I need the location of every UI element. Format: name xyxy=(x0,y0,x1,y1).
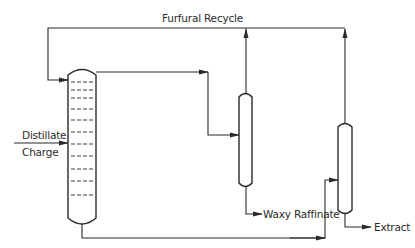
recycle-label: Furfural Recycle xyxy=(162,12,243,24)
raffinate-stream-down xyxy=(208,72,239,135)
waxy-raffinate-outlet xyxy=(246,187,262,214)
process-flow-diagram xyxy=(0,0,415,248)
extract-recovery-column xyxy=(338,124,352,214)
tower-trays xyxy=(71,82,93,195)
waxy-raffinate-label: Waxy Raffinate xyxy=(263,208,340,220)
extraction-tower xyxy=(68,70,96,225)
feed-label-line2: Charge xyxy=(22,146,58,158)
extract-outlet xyxy=(345,214,371,227)
extract-label: Extract xyxy=(374,221,410,233)
feed-label-line1: Distillate xyxy=(22,129,66,141)
raffinate-recovery-column xyxy=(239,94,252,187)
